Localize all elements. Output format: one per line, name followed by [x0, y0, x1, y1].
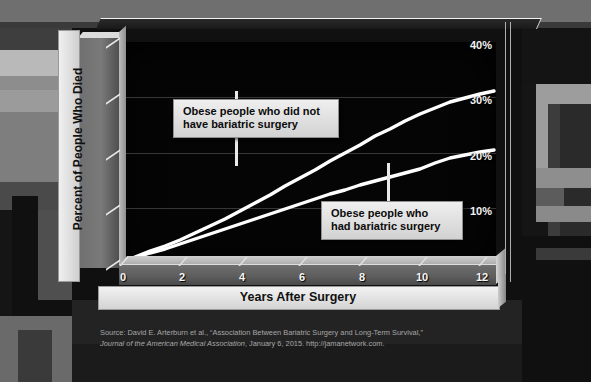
x-tick-label: 2 [179, 271, 185, 283]
frame-rail [505, 22, 506, 282]
frame-rail [510, 22, 511, 282]
x-axis-title: Years After Surgery [98, 286, 498, 308]
y-axis-side-face [119, 26, 126, 265]
callout-no-surgery: Obese people who did not have bariatric … [173, 99, 339, 138]
background-block [72, 344, 522, 382]
callout-surgery-line2: had bariatric surgery [331, 220, 453, 233]
infographic-chart: 40% 30% 20% 10% 0% Percent of People Who… [0, 0, 591, 382]
x-axis-bar: 0 2 4 6 8 10 12 [119, 264, 496, 285]
background-block [536, 188, 564, 206]
background-block [18, 330, 52, 382]
x-tick-label: 10 [416, 271, 428, 283]
y-tick-label: 30% [470, 94, 492, 106]
x-tick-label: 0 [120, 271, 126, 283]
x-tick-label: 8 [359, 271, 365, 283]
source-note: Source: David E. Arterburn et al., “Asso… [100, 328, 530, 349]
x-tick-label: 4 [239, 271, 245, 283]
chart-top-deck [96, 18, 542, 29]
source-line-2-rest: , January 6, 2015. http://jamanetwork.co… [245, 339, 385, 348]
source-journal-title: Journal of the American Medical Associat… [100, 339, 245, 348]
callout-pointer-surgery [387, 163, 390, 204]
background-block [0, 50, 60, 76]
callout-no-surgery-line1: Obese people who did not [183, 105, 329, 118]
callout-surgery-line1: Obese people who [331, 207, 453, 220]
y-tick-label: 20% [470, 150, 492, 162]
background-block [536, 168, 591, 188]
x-tick-label: 12 [476, 271, 488, 283]
x-axis-title-side-face [498, 274, 506, 308]
source-line-1: Source: David E. Arterburn et al., “Asso… [100, 328, 530, 339]
background-block [536, 248, 591, 260]
source-line-2: Journal of the American Medical Associat… [100, 339, 530, 350]
y-tick-label: 40% [470, 39, 492, 51]
x-tick-label: 6 [299, 271, 305, 283]
callout-surgery: Obese people who had bariatric surgery [321, 201, 463, 240]
y-tick-label: 10% [470, 205, 492, 217]
chart-frame: 40% 30% 20% 10% 0% Percent of People Who… [58, 18, 538, 308]
background-block [536, 206, 591, 222]
y-axis-title: Percent of People Who Died [71, 25, 85, 273]
callout-no-surgery-line2: have bariatric surgery [183, 118, 329, 131]
